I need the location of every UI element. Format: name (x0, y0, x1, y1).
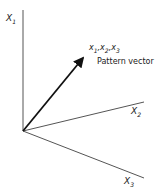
axis-x2-label: X2 (131, 107, 141, 118)
axis-x3 (23, 131, 144, 178)
pattern-vector-arrow (23, 58, 83, 131)
pattern-vector-diagram: X1 X2 X3 x1,x2,x3 Pattern vector (0, 0, 159, 193)
pattern-vector-caption: Pattern vector (97, 58, 154, 66)
axes-canvas (0, 0, 159, 193)
axis-x2 (23, 102, 144, 131)
axis-x3-label: X3 (124, 177, 134, 188)
axis-x1-label: X1 (6, 14, 16, 25)
vector-components-label: x1,x2,x3 (89, 44, 120, 54)
